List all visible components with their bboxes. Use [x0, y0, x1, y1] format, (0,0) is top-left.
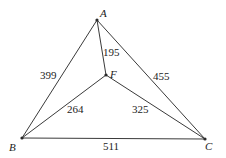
edge-weight-label: 511: [103, 140, 119, 152]
edge-bf: [22, 75, 106, 138]
vertex-label-f: F: [109, 68, 117, 80]
edge-bc: [22, 138, 205, 139]
vertex-point-a: [95, 18, 98, 21]
vertex-label-a: A: [99, 7, 107, 19]
vertex-point-b: [20, 136, 23, 139]
vertex-label-b: B: [9, 141, 16, 153]
edge-weight-label: 264: [67, 103, 84, 115]
edge-weight-label: 455: [153, 70, 170, 82]
edge-weight-label: 399: [40, 69, 57, 81]
edge-ab: [22, 20, 97, 138]
vertex-point-f: [104, 73, 107, 76]
edge-weight-label: 195: [103, 46, 120, 58]
vertex-label-c: C: [205, 140, 213, 152]
edge-weight-label: 325: [132, 103, 149, 115]
graph-diagram: 399455195264325511AFBC: [0, 0, 226, 158]
